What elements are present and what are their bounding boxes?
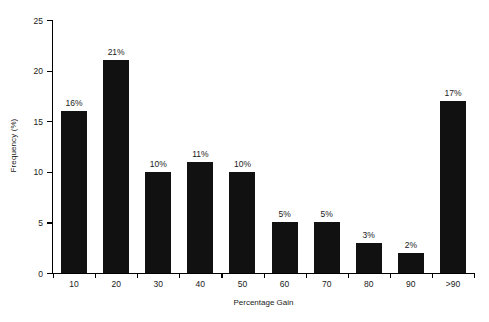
y-axis-tick-label: 0 xyxy=(38,269,43,279)
bar-group: 5%70 xyxy=(306,20,348,273)
x-axis-tick xyxy=(348,273,349,278)
x-axis-category-label: 40 xyxy=(196,279,205,289)
x-axis-tick xyxy=(221,273,222,278)
bar[interactable] xyxy=(61,111,87,273)
bar-group: 10%30 xyxy=(137,20,179,273)
y-axis-tick-label: 25 xyxy=(34,16,43,26)
x-axis-tick xyxy=(390,273,391,278)
bar-value-label: 5% xyxy=(320,209,332,219)
bar-group: 2%90 xyxy=(390,20,432,273)
x-axis-category-label: >90 xyxy=(446,279,460,289)
x-axis-tick xyxy=(53,273,54,278)
bar[interactable] xyxy=(314,222,340,273)
bar-group: 11%40 xyxy=(179,20,221,273)
plot-area: 0510152025 16%1021%2010%3011%4010%505%60… xyxy=(53,20,474,273)
y-axis-title: Frequency (%) xyxy=(4,0,24,290)
bar-value-label: 2% xyxy=(405,240,417,250)
bar-value-label: 10% xyxy=(150,159,167,169)
bar-value-label: 10% xyxy=(234,159,251,169)
x-axis-category-label: 20 xyxy=(111,279,120,289)
y-axis-tick-label: 20 xyxy=(34,66,43,76)
bar-value-label: 21% xyxy=(108,47,125,57)
bar[interactable] xyxy=(103,60,129,273)
x-axis-tick xyxy=(264,273,265,278)
bar-value-label: 17% xyxy=(444,88,461,98)
x-axis-category-label: 70 xyxy=(322,279,331,289)
x-axis-category-label: 10 xyxy=(69,279,78,289)
bar[interactable] xyxy=(229,172,255,273)
x-axis-tick xyxy=(137,273,138,278)
bar[interactable] xyxy=(398,253,424,273)
bar[interactable] xyxy=(187,162,213,273)
bar-group: 5%60 xyxy=(264,20,306,273)
x-axis-tick xyxy=(474,273,475,278)
bar[interactable] xyxy=(440,101,466,273)
x-axis-tick xyxy=(95,273,96,278)
y-axis-tick-label: 5 xyxy=(38,218,43,228)
x-axis-title: Percentage Gain xyxy=(53,298,474,307)
bar-group: 10%50 xyxy=(221,20,263,273)
x-axis-category-label: 50 xyxy=(238,279,247,289)
bar-group: 17%>90 xyxy=(432,20,474,273)
bar-group: 3%80 xyxy=(348,20,390,273)
bar-value-label: 3% xyxy=(363,230,375,240)
bar[interactable] xyxy=(272,222,298,273)
x-axis-tick xyxy=(179,273,180,278)
x-axis-category-label: 90 xyxy=(406,279,415,289)
bar[interactable] xyxy=(145,172,171,273)
bar-value-label: 16% xyxy=(66,98,83,108)
bar-group: 16%10 xyxy=(53,20,95,273)
x-axis-tick xyxy=(306,273,307,278)
bar-value-label: 11% xyxy=(192,149,208,159)
bar[interactable] xyxy=(356,243,382,273)
x-axis-category-label: 60 xyxy=(280,279,289,289)
bar-group: 21%20 xyxy=(95,20,137,273)
bar-value-label: 5% xyxy=(278,209,290,219)
x-axis-category-label: 80 xyxy=(364,279,373,289)
y-axis-tick-label: 10 xyxy=(34,167,43,177)
bar-chart-figure: Frequency (%) 0510152025 16%1021%2010%30… xyxy=(0,0,489,322)
y-axis-tick-label: 15 xyxy=(34,117,43,127)
x-axis-category-label: 30 xyxy=(154,279,163,289)
x-axis-tick xyxy=(432,273,433,278)
y-axis-title-text: Frequency (%) xyxy=(10,118,19,172)
